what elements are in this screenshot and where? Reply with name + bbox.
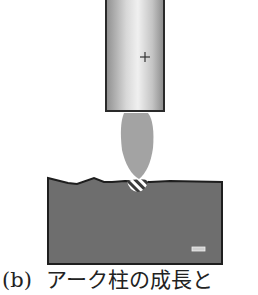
caption-text: アーク柱の成長と [46, 268, 213, 292]
minus-icon [192, 247, 205, 251]
caption-label: (b) [2, 266, 32, 295]
arc-welding-diagram [0, 0, 258, 268]
arc-column [121, 113, 154, 179]
figure-caption: (b)アーク柱の成長と [2, 266, 258, 295]
electrode [106, 0, 164, 111]
